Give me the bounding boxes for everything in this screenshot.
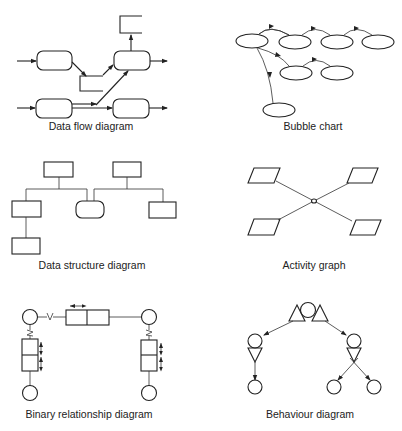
caption-behaviour-diagram: Behaviour diagram bbox=[266, 408, 354, 420]
binary-relationship-diagram bbox=[22, 306, 161, 401]
data-flow-diagram bbox=[17, 16, 167, 118]
bubble-chart bbox=[236, 24, 394, 117]
caption-data-flow-diagram: Data flow diagram bbox=[49, 120, 134, 132]
caption-data-structure-diagram: Data structure diagram bbox=[39, 259, 146, 271]
data-structure-diagram bbox=[12, 162, 176, 254]
caption-bubble-chart: Bubble chart bbox=[284, 120, 343, 132]
caption-binary-relationship-diagram: Binary relationship diagram bbox=[25, 408, 152, 420]
caption-activity-graph: Activity graph bbox=[282, 259, 345, 271]
behaviour-diagram bbox=[248, 303, 381, 395]
activity-graph bbox=[248, 168, 381, 235]
